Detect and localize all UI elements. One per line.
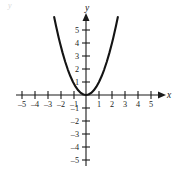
coordinate-plane-svg: –5 –4 –3 –2 –1 1 2 3 4 5 5 4 3 2 1 –1 –2… [0,0,177,177]
y-tick-label: –3 [70,130,79,139]
x-tick-label: 4 [136,100,140,109]
y-axis-label: y [84,3,90,13]
x-tick-label: –3 [43,100,52,109]
y-tick-label: 4 [75,39,79,48]
y-tick-label: 2 [75,65,79,74]
x-tick-label: –5 [17,100,26,109]
y-tick-label: –1 [70,104,79,113]
y-tick-label: 5 [75,26,79,35]
x-axis-label: x [166,90,172,100]
x-tick-label: 1 [97,100,101,109]
x-tick-label: 2 [110,100,114,109]
y-tick-label: –5 [70,156,79,165]
x-tick-label: 3 [123,100,127,109]
y-tick-label: –2 [70,117,79,126]
y-tick-label: 1 [75,78,79,87]
x-tick-label: –4 [30,100,39,109]
y-tick-label: 3 [75,52,79,61]
x-tick-label: –2 [56,100,65,109]
up-arrow-icon [83,13,90,21]
x-tick-label: 5 [149,100,153,109]
y-tick-label: –4 [70,143,79,152]
right-arrow-icon [158,92,166,99]
graph-figure: y [0,0,177,177]
